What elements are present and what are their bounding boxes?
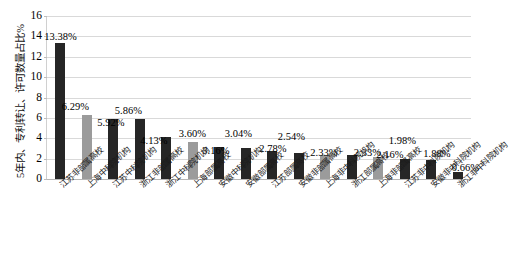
bar-value-label: 13.38%	[44, 31, 76, 42]
y-axis-tick-label: 12	[31, 51, 43, 63]
gridline	[47, 16, 471, 17]
y-axis-title: 5年内、专利转让、许可数量占比%	[14, 6, 28, 196]
y-axis-tick-label: 0	[36, 173, 42, 185]
bar-value-label: 1.98%	[389, 135, 416, 146]
bar-value-label: 4.13%	[140, 135, 167, 146]
gridline	[47, 36, 471, 37]
y-axis-tick-mark	[44, 118, 47, 119]
y-axis-tick-mark	[44, 179, 47, 180]
bar-value-label: 5.86%	[115, 105, 142, 116]
y-axis-tick-label: 8	[36, 92, 42, 104]
bar-value-label: 2.54%	[278, 131, 305, 142]
gridline	[47, 98, 471, 99]
gridline	[47, 57, 471, 58]
y-axis-tick-mark	[44, 57, 47, 58]
y-axis-tick-mark	[44, 138, 47, 139]
y-axis-tick-mark	[44, 159, 47, 160]
y-axis-tick-mark	[44, 77, 47, 78]
y-axis-tick-label: 10	[31, 71, 43, 83]
y-axis-tick-label: 6	[36, 112, 42, 124]
y-axis-tick-mark	[44, 16, 47, 17]
y-axis-tick-label: 2	[36, 153, 42, 165]
bar-value-label: 3.60%	[179, 128, 206, 139]
y-axis-tick-mark	[44, 98, 47, 99]
gridline	[47, 77, 471, 78]
y-axis-tick-label: 4	[36, 133, 42, 145]
y-axis-tick-label: 16	[31, 10, 43, 22]
y-axis-tick-label: 14	[31, 31, 43, 43]
bar-value-label: 6.29%	[62, 101, 89, 112]
bar-value-label: 5.92%	[97, 117, 124, 128]
bar-value-label: 3.04%	[225, 128, 252, 139]
